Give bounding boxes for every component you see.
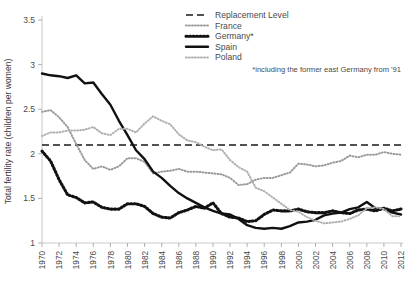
series-line-france: [42, 110, 401, 185]
legend-label-replacement-level: Replacement Level: [215, 10, 289, 20]
x-tick-label: 2010: [380, 251, 389, 270]
x-tick-label: 1998: [278, 251, 287, 270]
y-axis-title: Total fertility rate (children per women…: [3, 59, 13, 205]
x-tick-label: 2008: [363, 251, 372, 270]
legend: Replacement LevelFranceGermany*SpainPola…: [186, 10, 289, 62]
x-tick-label: 1970: [38, 251, 47, 270]
series-line-poland: [42, 116, 401, 223]
x-tick-label: 1978: [107, 251, 116, 270]
legend-label-germany: Germany*: [215, 31, 254, 41]
y-tick-label: 2: [30, 149, 35, 159]
x-tick-label: 1974: [72, 251, 81, 270]
series-line-spain: [42, 74, 401, 229]
fertility-rate-line-chart: 11.522.533.51970197219741976197819801982…: [0, 0, 415, 295]
x-tick-label: 1982: [141, 251, 150, 270]
legend-label-poland: Poland: [215, 52, 242, 62]
x-tick-label: 1976: [89, 251, 98, 270]
x-tick-label: 1972: [55, 251, 64, 270]
x-tick-label: 2000: [295, 251, 304, 270]
x-tick-label: 2002: [312, 251, 321, 270]
y-tick-label: 3.5: [23, 15, 35, 25]
legend-label-spain: Spain: [215, 42, 237, 52]
series-group: [42, 74, 401, 229]
y-tick-label: 1.5: [23, 193, 35, 203]
y-tick-label: 1: [30, 238, 35, 248]
x-tick-label: 1996: [260, 251, 269, 270]
chart-canvas: 11.522.533.51970197219741976197819801982…: [0, 0, 415, 295]
x-tick-label: 1980: [124, 251, 133, 270]
x-tick-label: 1988: [192, 251, 201, 270]
legend-label-france: France: [215, 21, 242, 31]
y-tick-label: 3: [30, 60, 35, 70]
x-tick-label: 1986: [175, 251, 184, 270]
x-tick-label: 1990: [209, 251, 218, 270]
germany-footnote: *including the former east Germany from …: [252, 65, 401, 74]
x-tick-label: 2012: [397, 251, 406, 270]
x-tick-label: 1992: [226, 251, 235, 270]
x-tick-label: 2004: [329, 251, 338, 270]
x-tick-label: 1994: [243, 251, 252, 270]
x-tick-label: 1984: [158, 251, 167, 270]
x-tick-label: 2006: [346, 251, 355, 270]
y-tick-label: 2.5: [23, 104, 35, 114]
